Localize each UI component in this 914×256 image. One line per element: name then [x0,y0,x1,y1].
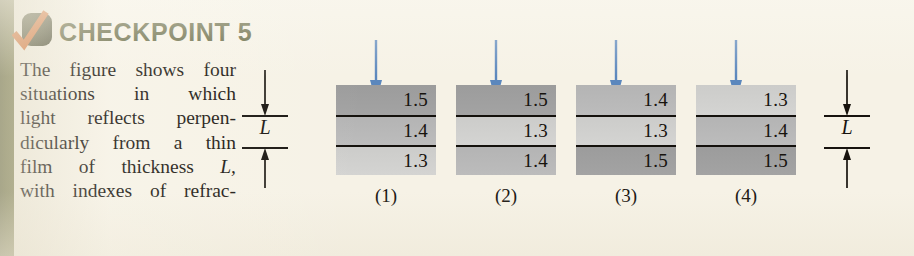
text-line-5: filmofthicknessL, [20,155,236,179]
film-layer: 1.5 [696,145,796,175]
refractive-index-label: 1.4 [643,89,668,111]
refractive-index-label: 1.5 [403,89,428,111]
refractive-index-label: 1.3 [403,150,428,172]
film-layer: 1.4 [456,145,556,175]
refractive-index-label: 1.4 [763,120,788,142]
film-layer: 1.4 [696,115,796,145]
film-stack-4: 1.3 1.4 1.5 [696,85,796,175]
checkpoint-header: CHECKPOINT 5 [14,6,252,52]
film-layer: 1.4 [576,85,676,115]
text-line-1: Thefigureshowsfour [20,58,236,82]
thickness-marker-left: L [236,68,294,190]
checkpoint-body-text: Thefigureshowsfour situationsinwhich lig… [20,58,236,203]
film-layer: 1.3 [696,85,796,115]
check-mark-icon [16,9,54,49]
page-title: CHECKPOINT 5 [59,14,252,45]
refractive-index-label: 1.5 [523,89,548,111]
text-line-6: withindexesofrefrac- [20,179,236,203]
checkpoint-figure-page: CHECKPOINT 5 Thefigureshowsfour situatio… [0,0,914,256]
film-layer: 1.5 [576,145,676,175]
check-mark-glyph [12,7,58,53]
stack-caption-2: (2) [456,185,556,207]
stack-caption-4: (4) [696,185,796,207]
refractive-index-label: 1.5 [763,150,788,172]
text-line-2: situationsinwhich [20,82,236,106]
four-film-stacks-figure: L 1.5 1.4 1.3 (1) 1.5 1.3 1.4 (2) [236,40,914,230]
refractive-index-label: 1.5 [643,150,668,172]
thickness-label-left: L [259,116,270,139]
film-layer: 1.3 [456,115,556,145]
stack-caption-3: (3) [576,185,676,207]
film-stack-1: 1.5 1.4 1.3 [336,85,436,175]
refractive-index-label: 1.3 [763,89,788,111]
film-stack-2: 1.5 1.3 1.4 [456,85,556,175]
film-layer: 1.3 [576,115,676,145]
film-layer: 1.3 [336,145,436,175]
text-line-4: dicularlyfromathin [20,131,236,155]
stack-caption-1: (1) [336,185,436,207]
refractive-index-label: 1.4 [523,150,548,172]
refractive-index-label: 1.4 [403,120,428,142]
text-line-3: lightreflectsperpen- [20,106,236,130]
thickness-symbol: L, [220,155,236,179]
film-layer: 1.4 [336,115,436,145]
thickness-label-right: L [841,116,852,139]
film-layer: 1.5 [456,85,556,115]
thickness-marker-right: L [818,68,876,190]
film-layer: 1.5 [336,85,436,115]
refractive-index-label: 1.3 [643,120,668,142]
film-stack-3: 1.4 1.3 1.5 [576,85,676,175]
refractive-index-label: 1.3 [523,120,548,142]
